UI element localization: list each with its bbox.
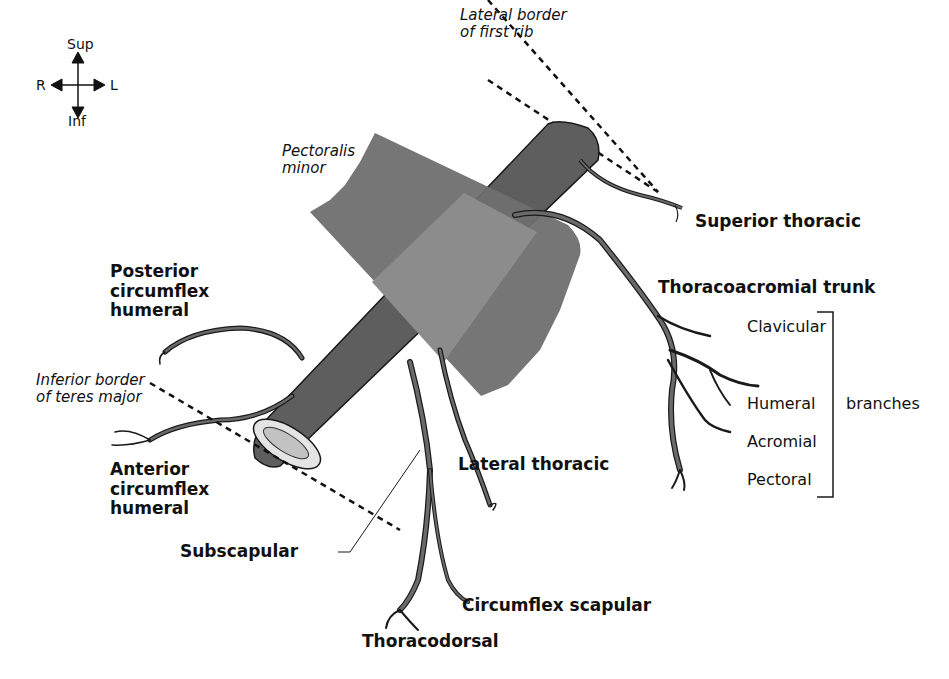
compass-sup-label: Sup [67,36,94,52]
branches-group-label: branches [846,395,920,413]
axillary-artery-diagram: Sup Inf R L Lateral border of first rib … [0,0,949,679]
compass-r-label: R [36,77,46,93]
thoracodorsal-label: Thoracodorsal [362,632,499,652]
lateral-thoracic-label: Lateral thoracic [458,455,609,475]
first-rib-label: Lateral border of first rib [460,7,567,42]
compass-inf-label: Inf [68,113,86,129]
posterior-circumflex-humeral-label: Posterior circumflex humeral [110,262,209,321]
subscapular-label: Subscapular [180,542,298,562]
superior-thoracic-label: Superior thoracic [695,212,861,232]
pectoralis-minor-label: Pectoralis minor [282,143,355,178]
teres-major-label: Inferior border of teres major [36,372,145,407]
branch-humeral: Humeral [747,395,815,413]
circumflex-scapular-label: Circumflex scapular [462,596,651,616]
posterior-circumflex-humeral-artery [160,328,302,364]
thoracoacromial-trunk-label: Thoracoacromial trunk [658,278,875,298]
subscapular-artery [386,362,468,630]
orientation-compass-icon [51,52,105,118]
anterior-circumflex-humeral-label: Anterior circumflex humeral [110,460,209,519]
branch-acromial: Acromial [747,433,817,451]
branches-bracket [817,312,833,497]
branch-pectoral: Pectoral [747,471,812,489]
compass-l-label: L [110,77,118,93]
branch-clavicular: Clavicular [747,318,826,336]
